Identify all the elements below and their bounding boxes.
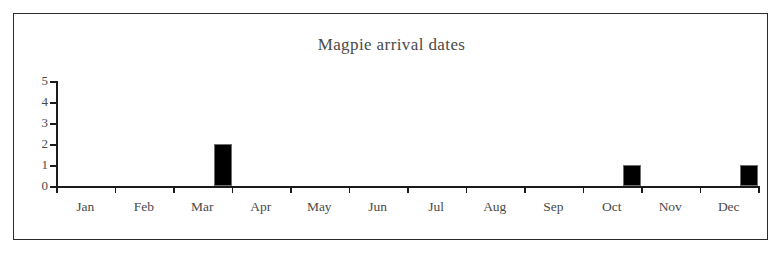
y-axis-line bbox=[56, 81, 58, 187]
x-axis-tick bbox=[173, 186, 175, 193]
x-axis-tick-label: Nov bbox=[641, 199, 700, 215]
x-axis-tick-label: Feb bbox=[115, 199, 174, 215]
y-axis-tick bbox=[50, 102, 56, 104]
y-axis-tick-label: 3 bbox=[26, 116, 48, 129]
x-axis-tick-label: Sep bbox=[524, 199, 583, 215]
x-axis-tick bbox=[349, 186, 351, 193]
x-axis-tick-label: Apr bbox=[232, 199, 291, 215]
x-axis-tick bbox=[466, 186, 468, 193]
y-axis-tick-label: 2 bbox=[26, 137, 48, 150]
x-axis-tick bbox=[115, 186, 117, 193]
plot-area: 012345 JanFebMarAprMayJunJulAugSepOctNov… bbox=[56, 81, 758, 186]
y-axis-tick-label: 0 bbox=[26, 179, 48, 192]
x-axis-tick-label: Aug bbox=[466, 199, 525, 215]
y-axis-tick-label: 1 bbox=[26, 158, 48, 171]
y-axis-tick bbox=[50, 165, 56, 167]
y-axis-tick-label: 5 bbox=[26, 74, 48, 87]
y-axis-tick bbox=[50, 144, 56, 146]
x-axis-tick bbox=[641, 186, 643, 193]
y-axis-tick bbox=[50, 123, 56, 125]
x-axis-tick-label: Oct bbox=[583, 199, 642, 215]
x-axis-tick-label: May bbox=[290, 199, 349, 215]
y-axis-tick bbox=[50, 81, 56, 83]
bar bbox=[740, 165, 758, 186]
y-axis-tick-label: 4 bbox=[26, 95, 48, 108]
x-axis-tick bbox=[583, 186, 585, 193]
x-axis-tick bbox=[524, 186, 526, 193]
x-axis-tick-label: Jan bbox=[56, 199, 115, 215]
chart-figure: Magpie arrival dates 012345 JanFebMarApr… bbox=[0, 0, 781, 254]
chart-title: Magpie arrival dates bbox=[14, 35, 769, 55]
bar bbox=[214, 144, 232, 186]
chart-frame: Magpie arrival dates 012345 JanFebMarApr… bbox=[13, 13, 768, 240]
x-axis-tick-label: Dec bbox=[700, 199, 759, 215]
x-axis-tick-label: Jun bbox=[349, 199, 408, 215]
x-axis-tick bbox=[232, 186, 234, 193]
x-axis-tick-label: Mar bbox=[173, 199, 232, 215]
x-axis-tick bbox=[407, 186, 409, 193]
x-axis-tick-label: Jul bbox=[407, 199, 466, 215]
x-axis-tick bbox=[290, 186, 292, 193]
bar bbox=[623, 165, 641, 186]
x-axis-tick bbox=[700, 186, 702, 193]
x-axis-tick bbox=[56, 186, 58, 193]
x-axis-tick bbox=[758, 186, 760, 193]
